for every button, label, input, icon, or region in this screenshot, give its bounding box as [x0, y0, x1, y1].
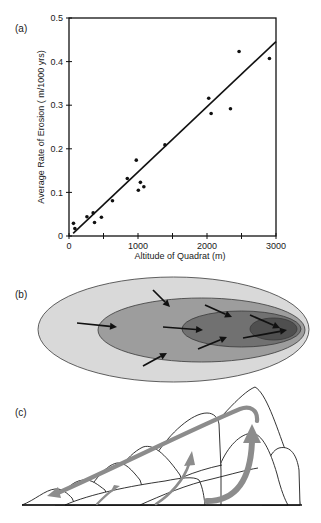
data-point	[229, 107, 233, 111]
y-tick-label: 0.4	[50, 57, 63, 67]
panel-label-c: (c)	[15, 407, 27, 418]
data-point	[73, 227, 77, 231]
data-point	[91, 211, 95, 215]
plot-frame	[69, 18, 276, 236]
fit-line	[73, 42, 276, 234]
data-point	[137, 188, 141, 192]
data-point	[142, 185, 146, 189]
data-point	[72, 222, 76, 226]
zone-core	[250, 318, 297, 340]
y-tick-label: 0.1	[50, 188, 63, 198]
regression-line	[73, 42, 276, 234]
y-tick-label: 0.2	[50, 144, 63, 154]
figure: (a) 00.10.20.30.40.5 0100020003000 Altit…	[0, 0, 321, 523]
x-tick-label: 0	[66, 241, 71, 251]
y-tick-label: 0.5	[50, 13, 63, 23]
x-tick-label: 2000	[197, 241, 217, 251]
panel-label-a: (a)	[15, 23, 27, 34]
data-point	[139, 181, 143, 185]
x-axis-title: Altitude of Quadrat (m)	[134, 251, 225, 261]
y-tick-label: 0.3	[50, 100, 63, 110]
panel-label-b: (b)	[15, 289, 27, 300]
data-point	[85, 215, 89, 219]
data-point	[268, 57, 272, 61]
data-point	[207, 96, 211, 100]
data-point	[111, 199, 115, 203]
panel-b: (b)	[15, 277, 309, 382]
panel-a: (a) 00.10.20.30.40.5 0100020003000 Altit…	[15, 13, 286, 261]
data-point	[134, 158, 138, 162]
data-point	[100, 215, 104, 219]
data-point	[163, 143, 167, 147]
y-axis-title: Average Rate of Erosion ( m/1000 yrs)	[36, 50, 46, 203]
y-tick-label: 0	[58, 231, 63, 241]
x-tick-label: 3000	[266, 241, 286, 251]
data-point	[93, 221, 97, 225]
data-point	[209, 112, 213, 116]
data-point	[237, 50, 241, 54]
data-point	[126, 177, 130, 181]
panel-c: (c)	[15, 387, 302, 505]
x-tick-label: 1000	[128, 241, 148, 251]
